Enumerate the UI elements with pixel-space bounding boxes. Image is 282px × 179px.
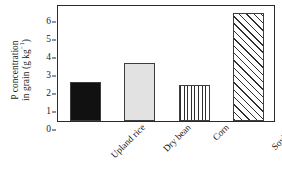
y-axis-tick-label: 2 bbox=[46, 89, 51, 99]
y-axis-tick-label: 1 bbox=[46, 107, 51, 117]
y-axis-label-line2-text: in grain (g kg bbox=[20, 49, 30, 101]
y-axis-tick-mark bbox=[52, 22, 57, 23]
plot-area bbox=[57, 5, 275, 122]
y-axis-tick-label: 4 bbox=[46, 54, 51, 64]
y-axis-tick-mark bbox=[52, 112, 57, 113]
y-axis-tick-mark bbox=[52, 94, 57, 95]
bars-container bbox=[58, 6, 274, 121]
y-axis-tick-label: 5 bbox=[46, 36, 51, 46]
y-axis-label-line2: in grain (g kg−1) bbox=[20, 39, 31, 101]
y-axis-tick-mark bbox=[52, 76, 57, 77]
x-axis-label-corn: Corn bbox=[212, 123, 232, 143]
x-axis-label-dry-bean: Dry bean bbox=[162, 123, 193, 154]
y-axis-tick-mark bbox=[52, 40, 57, 41]
bar-chart-figure: P concentration in grain (g kg−1) 012345… bbox=[0, 0, 282, 179]
y-axis-label-text: P concentration in grain (g kg−1) bbox=[10, 39, 31, 101]
y-axis-label: P concentration in grain (g kg−1) bbox=[2, 10, 38, 130]
y-axis-tick-label: 6 bbox=[46, 18, 51, 28]
y-axis-tick-label: 0 bbox=[46, 125, 51, 135]
bar-upland-rice bbox=[70, 82, 101, 121]
x-axis-label-upland-rice: Upland rice bbox=[110, 123, 147, 160]
y-axis-tick-label: 3 bbox=[46, 71, 51, 81]
x-axis-category-labels: Upland riceDry beanCornSoybean bbox=[57, 123, 275, 177]
y-axis-tick-labels: 0123456 bbox=[38, 14, 51, 122]
y-axis-label-line2-end: ) bbox=[20, 39, 30, 42]
bar-corn bbox=[179, 85, 210, 121]
y-axis-tick-mark bbox=[52, 130, 57, 131]
y-axis-tick-mark bbox=[52, 58, 57, 59]
x-axis-label-soybean: Soybean bbox=[270, 123, 282, 152]
bar-dry-bean bbox=[124, 63, 155, 120]
y-axis-label-line1: P concentration bbox=[10, 40, 20, 99]
y-axis-label-superscript: −1 bbox=[18, 42, 25, 49]
bar-soybean bbox=[233, 13, 264, 121]
